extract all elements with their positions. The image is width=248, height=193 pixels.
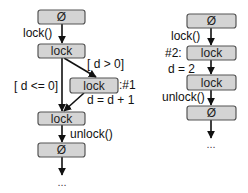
node-left-start: Ø [38,10,85,24]
node-label: lock [201,76,223,90]
edge-inner-to-lock [64,93,84,111]
right-diagram: Ø lock lock Ø lock() #2: d = 2 unlock() … [162,14,236,150]
node-label: Ø [57,143,66,157]
node-left-lock2: lock [38,112,85,126]
node-label: Ø [207,106,216,120]
node-label: lock [83,79,105,93]
node-label: Ø [57,10,66,24]
node-right-end: Ø [187,106,236,120]
node-left-end: Ø [38,143,85,157]
node-label: Ø [207,14,216,28]
label-tag: #2: [165,46,182,60]
node-right-start: Ø [187,14,236,28]
label-increment: d = d + 1 [87,93,135,107]
label-cond-true: [ d > 0] [87,57,124,71]
label-assign: d = 2 [168,62,195,76]
node-label: lock [51,112,73,126]
node-left-lock-inner: lock [70,78,118,93]
label-unlock-call: unlock() [70,127,113,141]
diagram-canvas: Ø lock lock lock Ø lock() [ d > 0] [ d <… [0,0,248,193]
label-lock-call: lock() [171,29,200,43]
node-label: lock [201,46,223,60]
left-diagram: Ø lock lock lock Ø lock() [ d > 0] [ d <… [14,10,136,188]
continuation-dots: ... [206,138,215,150]
label-cond-false: [ d <= 0] [14,79,58,93]
continuation-dots: ... [57,176,66,188]
label-inner-tag: :#1 [119,78,136,92]
node-label: lock [51,44,73,58]
node-right-lock2: lock [187,75,236,90]
label-lock-call: lock() [23,26,52,40]
node-right-lock1: lock [187,46,236,60]
node-left-lock1: lock [38,44,85,58]
label-unlock-call: unlock() [162,90,205,104]
